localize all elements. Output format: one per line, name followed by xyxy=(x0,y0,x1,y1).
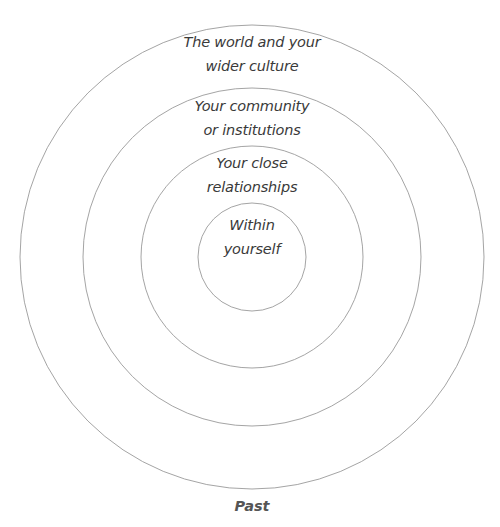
label-world-line-1: The world and your xyxy=(183,30,320,54)
label-self: Within yourself xyxy=(224,213,281,261)
label-world: The world and your wider culture xyxy=(183,30,320,78)
concentric-circles-diagram xyxy=(0,0,500,527)
label-self-line-1: Within xyxy=(224,213,281,237)
label-relationships-line-1: Your close xyxy=(207,151,298,175)
label-self-line-2: yourself xyxy=(224,237,281,261)
label-community: Your community or institutions xyxy=(195,94,310,142)
caption-past: Past xyxy=(234,498,269,514)
label-world-line-2: wider culture xyxy=(183,54,320,78)
label-relationships: Your close relationships xyxy=(207,151,298,199)
label-relationships-line-2: relationships xyxy=(207,175,298,199)
label-community-line-2: or institutions xyxy=(195,118,310,142)
label-community-line-1: Your community xyxy=(195,94,310,118)
